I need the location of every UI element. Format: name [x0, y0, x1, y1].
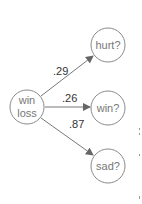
edge-artifact-mark	[139, 196, 140, 199]
edge-weight-sad: .87	[69, 118, 84, 130]
node-win: win?	[91, 91, 125, 125]
node-sad-label: sad?	[96, 160, 120, 172]
node-win-loss-line2: loss	[17, 107, 37, 119]
node-sad: sad?	[91, 149, 125, 183]
edge-weight-win: .26	[62, 92, 77, 104]
edge-weight-hurt: .29	[53, 65, 68, 77]
edge-artifact-mark	[139, 154, 140, 156]
edge-artifact-mark	[139, 128, 140, 130]
node-win-loss-line1: win	[18, 94, 36, 106]
edge-to-sad	[41, 118, 93, 155]
node-hurt-label: hurt?	[95, 39, 120, 51]
diagram-canvas: .29 .26 .87 win loss hurt? win? sad?	[0, 0, 142, 204]
edge-artifact-mark	[139, 133, 140, 135]
node-hurt: hurt?	[91, 28, 125, 62]
node-win-loss: win loss	[10, 90, 44, 124]
node-win-label: win?	[96, 102, 120, 114]
